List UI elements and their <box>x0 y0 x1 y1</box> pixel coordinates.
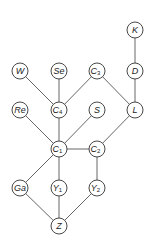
node-se: Se <box>51 63 67 79</box>
node-z: Z <box>51 218 67 234</box>
node-label: K <box>132 25 139 35</box>
node-label: D <box>132 66 139 76</box>
node-c1: C1 <box>51 141 67 157</box>
node-w: W <box>12 63 28 79</box>
node-label: L <box>132 105 137 115</box>
node-c2: C2 <box>89 141 105 157</box>
node-label: Se <box>53 66 64 76</box>
node-label: Ga <box>14 183 26 193</box>
node-l: L <box>127 102 143 118</box>
node-label: S <box>94 105 100 115</box>
node-c4: C4 <box>51 102 67 118</box>
node-y1: Y1 <box>51 180 67 196</box>
node-label: Z <box>55 221 62 231</box>
node-y2: Y2 <box>89 180 105 196</box>
node-layer: KWSeC3DReC4SLC1C2GaY1Y2Z <box>12 22 143 234</box>
node-ga: Ga <box>12 180 28 196</box>
node-re: Re <box>12 102 28 118</box>
node-s: S <box>89 102 105 118</box>
graph-diagram: KWSeC3DReC4SLC1C2GaY1Y2Z <box>0 0 160 250</box>
node-k: K <box>127 22 143 38</box>
node-d: D <box>127 63 143 79</box>
node-c3: C3 <box>89 63 105 79</box>
node-label: Re <box>14 105 26 115</box>
edge-layer <box>20 30 135 226</box>
